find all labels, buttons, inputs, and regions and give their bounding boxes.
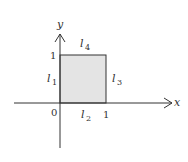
svg-text:l: l	[80, 37, 84, 50]
svg-text:2: 2	[86, 114, 91, 123]
edge-label-l4: l 4	[80, 37, 90, 52]
unit-square	[60, 55, 106, 103]
unit-square-diagram: y x 0 1 1 l 4 l 1 l 3 l 2	[0, 0, 188, 162]
svg-text:4: 4	[85, 43, 90, 52]
svg-text:l: l	[81, 108, 85, 121]
svg-text:l: l	[47, 72, 51, 85]
origin-label: 0	[51, 107, 57, 118]
y-tick-one: 1	[50, 50, 56, 61]
edge-label-l1: l 1	[47, 72, 57, 87]
edge-label-l3: l 3	[112, 72, 122, 87]
svg-text:3: 3	[117, 78, 122, 87]
y-axis-label: y	[56, 18, 64, 31]
edge-label-l2: l 2	[81, 108, 91, 123]
svg-text:1: 1	[52, 78, 57, 87]
x-axis-label: x	[174, 96, 181, 109]
svg-text:l: l	[112, 72, 116, 85]
x-tick-one: 1	[103, 109, 109, 120]
